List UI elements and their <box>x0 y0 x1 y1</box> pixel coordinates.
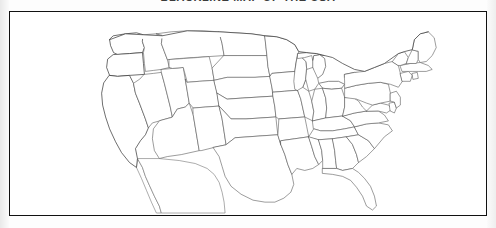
state-ohio <box>323 88 345 118</box>
us-outline-map <box>10 12 486 215</box>
map-title-text: BLACKLINE MAP OF THE USA <box>0 0 496 3</box>
state-new-hampshire <box>406 50 418 64</box>
state-south-dakota <box>212 56 270 81</box>
state-connecticut <box>400 71 412 81</box>
state-nebraska <box>214 76 273 99</box>
map-neighbors <box>136 159 225 213</box>
northern-mexico-outline <box>137 159 225 213</box>
scan-edge-left <box>0 0 9 228</box>
state-florida <box>323 168 377 210</box>
state-colorado <box>185 79 219 108</box>
page-surface: BLACKLINE MAP OF THE USA <box>0 0 496 228</box>
map-title: BLACKLINE MAP OF THE USA <box>0 0 496 5</box>
state-oregon <box>107 53 145 77</box>
map-frame-border <box>9 11 487 216</box>
state-rhode-island <box>412 72 418 79</box>
scan-edge-right <box>487 0 496 228</box>
